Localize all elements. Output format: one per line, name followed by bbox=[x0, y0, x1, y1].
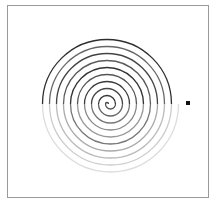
spiral-arc-top bbox=[78, 75, 137, 105]
spiral-arc-top bbox=[71, 68, 144, 105]
spiral-arc-top bbox=[106, 103, 109, 105]
spiral-arc-bottom bbox=[43, 104, 179, 172]
spiral-arc-bottom bbox=[92, 104, 130, 123]
spiral-arc-bottom bbox=[71, 104, 151, 144]
spiral-end-marker-icon bbox=[186, 101, 190, 105]
spiral-diagram bbox=[0, 0, 215, 207]
spiral-arc-top bbox=[91, 89, 122, 105]
spiral-arc-bottom bbox=[99, 104, 123, 116]
spiral-arc-top bbox=[43, 40, 172, 105]
spiral-arc-bottom bbox=[106, 104, 116, 109]
spiral-arc-bottom bbox=[50, 104, 172, 165]
